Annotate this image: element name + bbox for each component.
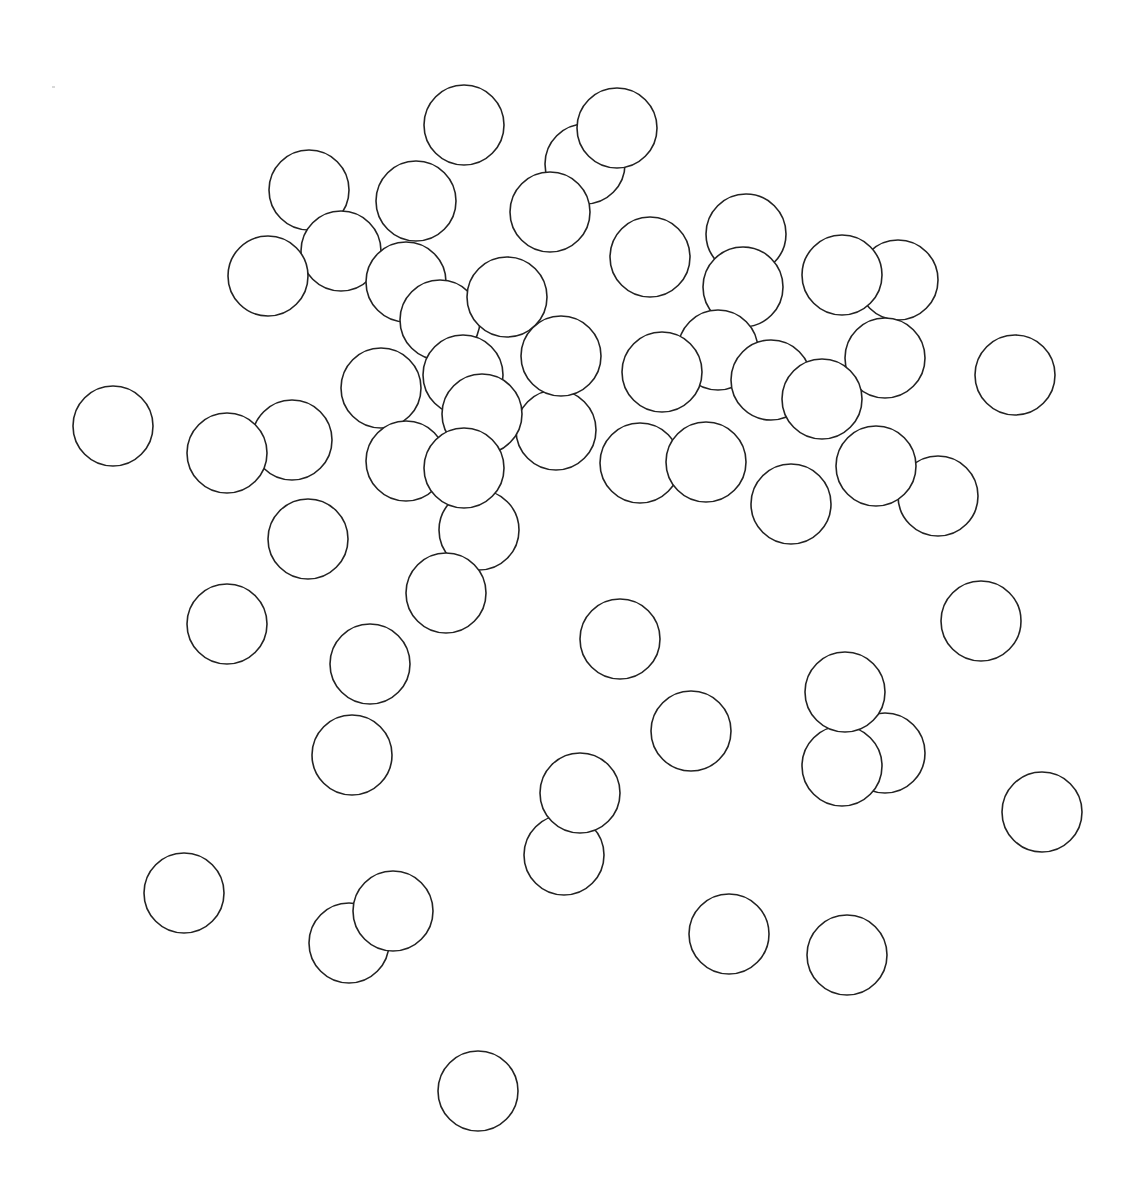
circle-37: [751, 464, 831, 544]
circle-diagram-canvas: [0, 0, 1139, 1186]
circle-47: [802, 726, 882, 806]
circle-6: [510, 172, 590, 252]
circle-45: [312, 715, 392, 795]
circle-27: [73, 386, 153, 466]
circle-34: [666, 422, 746, 502]
circle-23: [341, 348, 421, 428]
circle-55: [689, 894, 769, 974]
circle-42: [580, 599, 660, 679]
circle-54: [353, 871, 433, 951]
circle-44: [651, 691, 731, 771]
circle-7: [376, 161, 456, 241]
circle-43: [330, 624, 410, 704]
circle-52: [144, 853, 224, 933]
circle-41: [941, 581, 1021, 661]
speck-mark-0: [52, 86, 55, 88]
circle-49: [1002, 772, 1082, 852]
circle-51: [540, 753, 620, 833]
artifact-layer: [52, 86, 55, 88]
circle-40: [187, 584, 267, 664]
circle-19: [782, 359, 862, 439]
circle-3: [424, 85, 504, 165]
circle-15: [802, 235, 882, 315]
circle-39: [406, 553, 486, 633]
circle-layer: [73, 85, 1082, 1131]
circle-38: [268, 499, 348, 579]
circle-21: [975, 335, 1055, 415]
circle-36: [836, 426, 916, 506]
circle-2: [228, 236, 308, 316]
circle-32: [424, 428, 504, 508]
circle-48: [805, 652, 885, 732]
circle-11: [610, 217, 690, 297]
circle-5: [577, 88, 657, 168]
circle-56: [807, 915, 887, 995]
circle-20: [622, 332, 702, 412]
circle-57: [438, 1051, 518, 1131]
circle-29: [187, 413, 267, 493]
circle-24: [516, 390, 596, 470]
circle-25: [521, 316, 601, 396]
